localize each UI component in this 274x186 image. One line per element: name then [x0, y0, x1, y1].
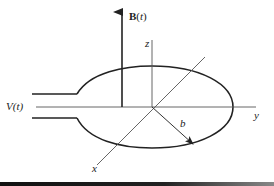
bottom-border: [0, 182, 274, 186]
y-axis-label: y: [253, 109, 259, 121]
b-field-label: B(t): [129, 10, 147, 23]
x-axis-label: x: [91, 162, 97, 174]
voltage-label: V(t): [6, 100, 23, 113]
radius-label: b: [180, 117, 186, 129]
z-axis-label: z: [144, 37, 150, 49]
loop-diagram: B(t) V(t) z y x b: [0, 0, 274, 186]
radius-arrow: [152, 107, 193, 144]
x-axis: [97, 57, 205, 165]
